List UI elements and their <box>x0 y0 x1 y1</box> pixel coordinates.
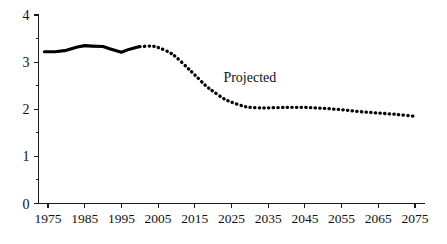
x-tick-label-1975: 1975 <box>35 211 62 226</box>
x-tick-label-2055: 2055 <box>328 211 355 226</box>
y-tick-label-3: 3 <box>23 55 30 70</box>
y-axis-ticks <box>34 15 39 204</box>
x-tick-label-1995: 1995 <box>108 211 135 226</box>
series-line-historical <box>44 46 139 53</box>
x-tick-label-2075: 2075 <box>402 211 429 226</box>
x-axis-ticks <box>48 204 415 209</box>
x-tick-label-2045: 2045 <box>291 211 318 226</box>
y-tick-label-1: 1 <box>23 149 30 164</box>
x-axis-tick-labels: 1975198519952005201520252035204520552065… <box>35 211 429 226</box>
y-axis-tick-labels: 01234 <box>23 8 30 212</box>
x-tick-label-2035: 2035 <box>255 211 282 226</box>
y-tick-label-4: 4 <box>23 8 30 23</box>
x-tick-label-2025: 2025 <box>218 211 245 226</box>
chart-container: 01234 1975198519952005201520252035204520… <box>0 0 447 244</box>
chart-annotations: Projected <box>223 70 276 85</box>
annotation-projected-label: Projected <box>223 70 276 85</box>
axes <box>39 15 426 204</box>
y-tick-label-2: 2 <box>23 102 30 117</box>
x-tick-label-2015: 2015 <box>181 211 208 226</box>
fertility-rate-line-chart: 01234 1975198519952005201520252035204520… <box>0 0 447 244</box>
x-tick-label-2065: 2065 <box>365 211 392 226</box>
series-line-projected <box>140 46 415 116</box>
x-tick-label-1985: 1985 <box>71 211 98 226</box>
y-tick-label-0: 0 <box>23 197 30 212</box>
x-tick-label-2005: 2005 <box>145 211 172 226</box>
